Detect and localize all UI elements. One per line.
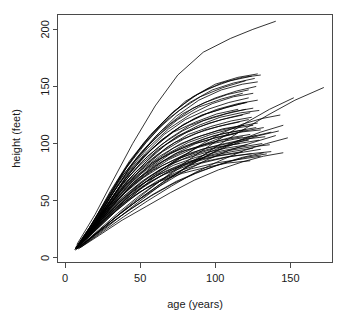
y-tick-label: 100 bbox=[39, 134, 51, 152]
y-axis-title: height (feet) bbox=[10, 109, 22, 168]
y-tick-label: 200 bbox=[39, 20, 51, 38]
x-axis-title: age (years) bbox=[167, 298, 223, 310]
x-tick-label: 0 bbox=[62, 272, 68, 284]
y-tick-label: 50 bbox=[39, 195, 51, 207]
x-tick-label: 50 bbox=[134, 272, 146, 284]
growth-curve-chart: 050100150050100150200 age (years) height… bbox=[0, 0, 348, 324]
x-tick-label: 150 bbox=[281, 272, 299, 284]
x-tick-label: 100 bbox=[206, 272, 224, 284]
chart-canvas: 050100150050100150200 age (years) height… bbox=[0, 0, 348, 324]
y-tick-label: 0 bbox=[39, 255, 51, 261]
y-tick-label: 150 bbox=[39, 77, 51, 95]
